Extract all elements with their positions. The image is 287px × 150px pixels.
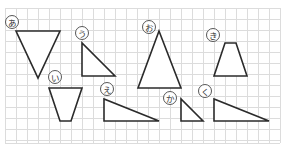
shape-label: か (166, 94, 175, 104)
trapezoid-outline (214, 43, 247, 76)
shape-label: い (51, 73, 60, 83)
shape-a: あ (6, 16, 61, 79)
right-triangle-outline (104, 99, 159, 121)
shape-u: う (76, 27, 116, 77)
right-triangle-outline (82, 43, 115, 76)
shape-ka: か (164, 92, 204, 122)
trapezoid-outline (49, 88, 82, 121)
shape-label: え (103, 85, 112, 95)
triangle-outline (138, 31, 181, 88)
right-triangle-outline (214, 99, 269, 121)
shapes-worksheet: あいうえおかきく (0, 0, 287, 150)
shape-label: き (209, 31, 218, 41)
shape-label: あ (8, 18, 17, 28)
shape-label: お (145, 23, 154, 33)
shape-label: う (78, 29, 87, 39)
shape-i: い (49, 71, 83, 122)
shape-label: く (201, 87, 210, 97)
